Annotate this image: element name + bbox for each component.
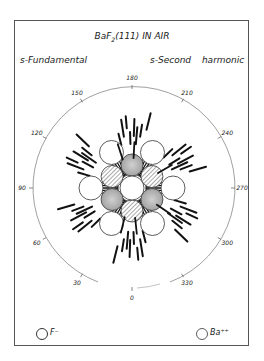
svg-text:270: 270 — [236, 184, 248, 191]
svg-text:120: 120 — [31, 129, 43, 136]
svg-text:60: 60 — [33, 239, 41, 246]
svg-text:240: 240 — [222, 129, 234, 136]
svg-text:180: 180 — [126, 74, 138, 81]
legend-label-barium: Ba⁺⁺ — [210, 328, 229, 337]
legend-label-fluorine: F⁻ — [50, 328, 59, 337]
svg-text:300: 300 — [222, 239, 234, 246]
svg-text:90: 90 — [18, 184, 26, 191]
crystal-lattice — [79, 140, 185, 235]
svg-text:0: 0 — [130, 294, 134, 301]
svg-text:330: 330 — [181, 279, 193, 286]
polar-plot: 0306090120150180210240270300330 — [0, 0, 264, 361]
legend-fluorine-icon — [37, 329, 48, 340]
legend — [37, 329, 208, 340]
legend-barium-icon — [197, 329, 208, 340]
svg-text:210: 210 — [181, 89, 193, 96]
svg-text:30: 30 — [73, 279, 81, 286]
svg-text:150: 150 — [71, 89, 83, 96]
